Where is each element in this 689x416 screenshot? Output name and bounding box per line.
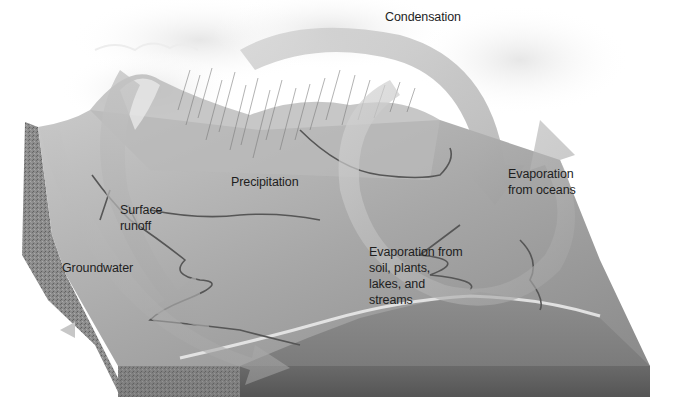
label-evaporation-from-oceans: Evaporation from oceans xyxy=(508,166,576,198)
label-evaporation-from-land: Evaporation from soil, plants, lakes, an… xyxy=(369,244,463,308)
label-precipitation: Precipitation xyxy=(231,174,299,190)
label-surface-runoff: Surface runoff xyxy=(120,202,162,234)
label-groundwater: Groundwater xyxy=(62,260,133,276)
water-cycle-illustration xyxy=(0,0,689,416)
label-condensation: Condensation xyxy=(385,9,461,25)
